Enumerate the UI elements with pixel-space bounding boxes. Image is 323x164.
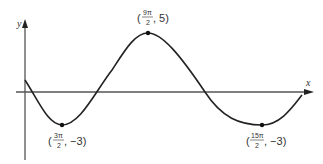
y-axis-label: y	[16, 18, 22, 29]
y-axis-arrow-icon	[22, 19, 28, 28]
svg-text:(: (	[137, 12, 141, 24]
svg-text:, −3): , −3)	[64, 135, 86, 147]
x-axis-label: x	[305, 77, 311, 88]
svg-text:2: 2	[255, 142, 259, 149]
svg-text:2: 2	[57, 142, 61, 149]
svg-text:15π: 15π	[251, 132, 264, 139]
svg-text:3π: 3π	[54, 132, 63, 139]
maximum-point	[146, 31, 150, 35]
x-axis: x	[16, 77, 314, 95]
sinusoid-curve	[25, 33, 302, 125]
svg-text:(: (	[48, 135, 52, 147]
svg-text:9π: 9π	[143, 9, 152, 16]
minimum-label-1: ( 3π 2 , −3)	[48, 132, 86, 149]
minimum-point-1	[60, 123, 64, 127]
maximum-label: ( 9π 2 , 5)	[137, 9, 169, 26]
minimum-label-2: ( 15π 2 , −3)	[246, 132, 286, 149]
svg-text:, −3): , −3)	[264, 135, 286, 147]
svg-text:(: (	[246, 135, 250, 147]
x-axis-arrow-icon	[304, 89, 314, 95]
minimum-point-2	[260, 123, 264, 127]
svg-text:, 5): , 5)	[153, 12, 169, 24]
sinusoid-graph: y x ( 9π 2 , 5) ( 3π 2 , −3) ( 15π 2 , −…	[0, 0, 323, 164]
svg-text:2: 2	[146, 19, 150, 26]
y-axis: y	[16, 18, 28, 160]
